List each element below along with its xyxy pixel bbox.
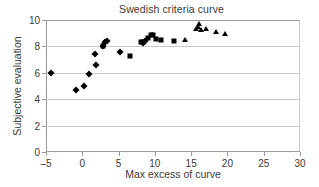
plot-border-right [299,20,300,152]
y-tick [42,73,46,74]
plot-border-bottom [46,151,300,152]
x-tick [46,152,47,156]
data-point-square [128,53,133,58]
gridline-y [46,99,300,100]
x-tick [119,152,120,156]
plot-border-left [46,20,47,152]
x-tick [227,152,228,156]
data-point-diamond [116,49,123,56]
chart-title: Swedish criteria curve [0,3,319,15]
plot-border-top [46,20,300,21]
data-point-diamond [73,86,80,93]
x-tick [155,152,156,156]
data-point-triangle [149,32,155,37]
y-tick [42,126,46,127]
data-point-triangle [222,31,228,36]
x-tick [300,152,301,156]
data-point-triangle [182,37,188,42]
gridline-y [46,46,300,47]
data-point-diamond [93,61,100,68]
data-point-diamond [81,82,88,89]
x-tick [191,152,192,156]
y-tick [42,20,46,21]
gridline-y [46,73,300,74]
y-tick [42,46,46,47]
y-axis-title-wrapper: Subjective evaluation [11,20,25,152]
y-axis-title: Subjective evaluation [11,20,23,152]
data-point-diamond [48,69,55,76]
x-tick [264,152,265,156]
data-point-diamond [91,51,98,58]
data-point-square [158,38,163,43]
chart-figure: Swedish criteria curve 0246810 –50510152… [0,0,319,187]
data-point-diamond [85,71,92,78]
gridline-y [46,126,300,127]
y-tick [42,99,46,100]
data-point-square [171,39,176,44]
plot-area: 0246810 –5051015202530 [46,20,300,152]
data-point-triangle [196,21,202,26]
data-point-triangle [213,29,219,34]
data-point-triangle [203,26,209,31]
x-tick [82,152,83,156]
x-axis-title: Max excess of curve [46,168,300,180]
data-point-square [101,43,106,48]
